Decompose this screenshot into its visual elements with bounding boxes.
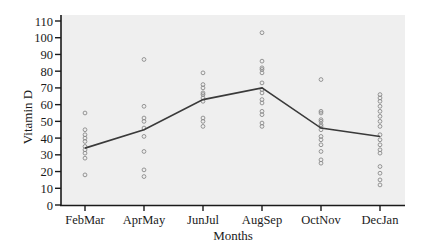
y-tick-label: 80 bbox=[41, 65, 54, 79]
y-tick-label: 110 bbox=[35, 15, 53, 29]
y-tick-label: 10 bbox=[41, 182, 54, 196]
y-tick-label: 20 bbox=[41, 165, 54, 179]
y-tick-label: 100 bbox=[34, 31, 53, 45]
x-tick-label: FebMar bbox=[65, 213, 105, 227]
y-tick-label: 30 bbox=[41, 148, 54, 162]
x-axis-title: Months bbox=[213, 228, 253, 243]
x-tick-label: AprMay bbox=[123, 213, 166, 227]
y-axis-ticks: 0102030405060708090100110 bbox=[34, 15, 61, 213]
plot-area bbox=[61, 15, 405, 205]
y-tick-label: 90 bbox=[41, 48, 54, 62]
x-tick-label: AugSep bbox=[242, 213, 282, 227]
x-tick-label: DecJan bbox=[362, 213, 400, 227]
x-axis-ticks: FebMarAprMayJunJulAugSepOctNovDecJan bbox=[65, 205, 399, 227]
y-tick-label: 50 bbox=[41, 115, 54, 129]
y-tick-label: 40 bbox=[41, 132, 54, 146]
vitamin-d-chart: 0102030405060708090100110 FebMarAprMayJu… bbox=[0, 0, 423, 250]
x-tick-label: JunJul bbox=[187, 213, 219, 227]
x-tick-label: OctNov bbox=[301, 213, 341, 227]
y-axis-title: Vitamin D bbox=[20, 90, 35, 144]
y-tick-label: 70 bbox=[41, 81, 54, 95]
y-tick-label: 0 bbox=[47, 199, 53, 213]
y-tick-label: 60 bbox=[41, 98, 54, 112]
